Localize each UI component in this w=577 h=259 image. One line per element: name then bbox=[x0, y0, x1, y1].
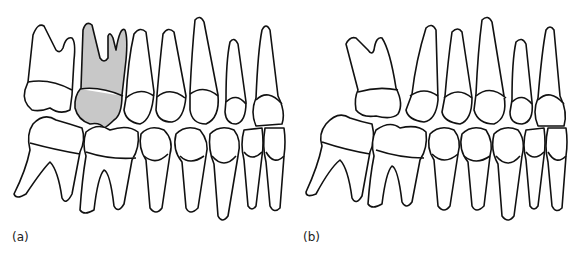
upper-premolar-1 bbox=[406, 25, 438, 122]
panel-a-teeth bbox=[14, 17, 285, 220]
dental-diagram bbox=[0, 0, 577, 259]
upper-premolar-2 bbox=[442, 29, 472, 124]
upper-central-incisor bbox=[535, 27, 565, 126]
lower-lateral-incisor bbox=[524, 128, 545, 209]
lower-first-molar bbox=[368, 124, 426, 207]
lower-second-molar bbox=[14, 117, 84, 201]
upper-canine bbox=[474, 17, 505, 124]
lower-premolar-2 bbox=[175, 128, 207, 212]
lower-premolar-1 bbox=[429, 128, 460, 210]
upper-first-molar-highlighted bbox=[75, 23, 127, 128]
panel-b-teeth bbox=[306, 17, 567, 220]
upper-canine bbox=[190, 17, 218, 124]
upper-premolar-1 bbox=[124, 29, 154, 124]
lower-canine bbox=[210, 128, 240, 220]
upper-second-molar bbox=[24, 25, 74, 112]
upper-central-incisor bbox=[253, 26, 283, 126]
lower-central-incisor bbox=[264, 128, 285, 211]
upper-premolar-2 bbox=[156, 29, 186, 122]
lower-central-incisor bbox=[546, 128, 567, 211]
lower-premolar-2 bbox=[461, 128, 491, 210]
upper-lateral-incisor bbox=[225, 39, 246, 124]
upper-lateral-incisor bbox=[510, 39, 532, 124]
panel-b-label: (b) bbox=[303, 230, 320, 244]
lower-lateral-incisor bbox=[242, 128, 263, 209]
upper-molar-tipped bbox=[346, 38, 401, 118]
lower-second-molar bbox=[306, 115, 374, 201]
panel-a-label: (a) bbox=[12, 230, 29, 244]
lower-premolar-1 bbox=[140, 128, 171, 212]
lower-first-molar bbox=[80, 126, 138, 213]
lower-canine bbox=[493, 128, 524, 220]
